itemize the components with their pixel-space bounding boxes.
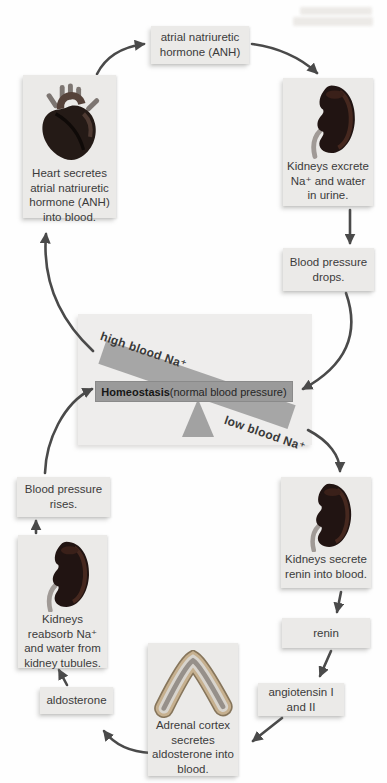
- renin-label: renin: [285, 626, 367, 641]
- homeostasis-bar-bold-text: Homeostasis: [101, 386, 169, 398]
- kidneys-excrete-caption: Kidneys excrete Na⁺ and water in urine.: [286, 159, 370, 203]
- homeostasis-diagram: high blood Na⁺ low blood Na⁺ Homeostasis…: [0, 0, 387, 783]
- kidneys-excrete-node: Kidneys excrete Na⁺ and water in urine.: [283, 78, 373, 206]
- angiotensin-node: angiotensin I and II: [258, 683, 344, 716]
- renin-node: renin: [282, 618, 370, 648]
- arrow-renin-to-angiotensin: [320, 651, 331, 676]
- heart-node: Heart secretes atrial natriuretic hormon…: [23, 75, 116, 218]
- kidneys-renin-caption: Kidneys secrete renin into blood.: [284, 552, 368, 581]
- aldosterone-label: aldosterone: [43, 693, 110, 708]
- aldosterone-node: aldosterone: [40, 687, 113, 714]
- kidney-icon: [297, 81, 359, 159]
- kidneys-reabsorb-node: Kidneys reabsorb Na⁺ and water from kidn…: [18, 535, 107, 668]
- arrow-adrenal-to-aldosterone: [104, 731, 151, 753]
- bp-drops-label: Blood pressure drops.: [286, 255, 371, 284]
- bp-drops-node: Blood pressure drops.: [283, 248, 374, 291]
- arrow-anh-to-kidneys: [252, 44, 317, 73]
- arrow-aldosterone-to-kidneys-reabsorb: [59, 670, 67, 685]
- heart-caption: Heart secretes atrial natriuretic hormon…: [26, 166, 113, 225]
- anh-label: atrial natriuretic hormone (ANH): [154, 30, 246, 59]
- heart-icon: [31, 78, 109, 166]
- anh-node: atrial natriuretic hormone (ANH): [151, 26, 249, 64]
- arrow-homeostasis-to-kidneys-renin: [308, 430, 340, 471]
- watermark: [300, 7, 372, 15]
- homeostasis-bar: Homeostasis (normal blood pressure): [95, 381, 293, 402]
- angiotensin-label: angiotensin I and II: [261, 685, 341, 714]
- arrow-kidneys-renin-to-renin: [337, 592, 341, 612]
- bp-rises-node: Blood pressure rises.: [17, 477, 110, 517]
- adrenal-gland-icon: [153, 646, 233, 718]
- arrow-angiotensin-to-adrenal: [253, 718, 282, 741]
- seesaw-fulcrum: [182, 399, 214, 437]
- watermark: [293, 17, 373, 26]
- adrenal-node: Adrenal cortex secretes aldosterone into…: [148, 643, 238, 776]
- kidneys-reabsorb-caption: Kidneys reabsorb Na⁺ and water from kidn…: [21, 612, 104, 671]
- bp-rises-label: Blood pressure rises.: [20, 482, 107, 511]
- kidneys-renin-node: Kidneys secrete renin into blood.: [281, 477, 371, 588]
- adrenal-caption: Adrenal cortex secretes aldosterone into…: [151, 718, 235, 777]
- kidney-icon: [33, 538, 93, 612]
- arrow-heart-to-anh: [97, 44, 144, 74]
- kidney-icon: [297, 480, 355, 552]
- homeostasis-bar-normal-text: (normal blood pressure): [170, 386, 287, 398]
